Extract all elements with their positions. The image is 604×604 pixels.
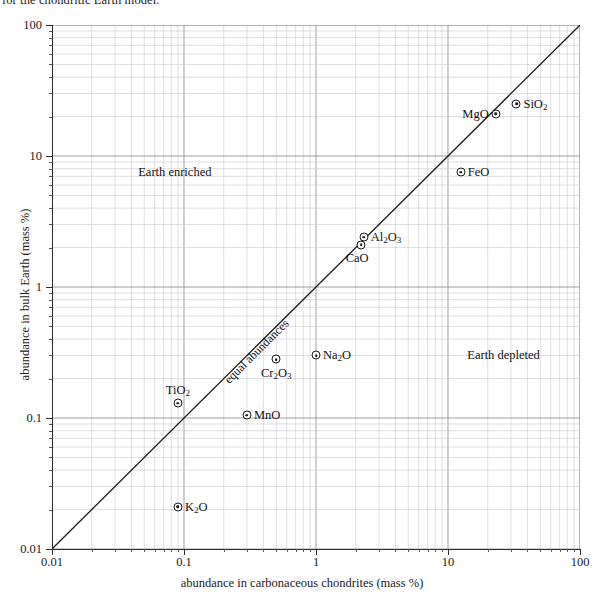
x-tick-minor — [115, 549, 116, 552]
y-tick-minor — [49, 326, 52, 327]
y-tick-minor — [49, 486, 52, 487]
x-tick-minor — [567, 549, 568, 552]
y-tick-label: 0.01 — [0, 542, 42, 557]
x-tick-minor — [356, 549, 357, 552]
y-tick-minor — [49, 379, 52, 380]
x-tick-minor — [395, 549, 396, 552]
x-tick-minor — [560, 549, 561, 552]
y-tick-minor — [49, 470, 52, 471]
y-tick — [46, 25, 52, 26]
x-tick-label: 100 — [571, 555, 590, 570]
y-tick-label: 10 — [0, 149, 42, 164]
y-tick — [46, 418, 52, 419]
y-axis-title: abundance in bulk Earth (mass %) — [18, 175, 33, 415]
y-tick-minor — [49, 117, 52, 118]
x-axis-title: abundance in carbonaceous chondrites (ma… — [0, 576, 604, 591]
y-tick-minor — [49, 457, 52, 458]
x-tick-minor — [164, 549, 165, 552]
x-tick-minor — [296, 549, 297, 552]
x-tick-minor — [303, 549, 304, 552]
x-tick-minor — [540, 549, 541, 552]
x-tick-minor — [155, 549, 156, 552]
x-tick-minor — [287, 549, 288, 552]
x-tick-label: 0.1 — [176, 555, 192, 570]
x-tick-minor — [442, 549, 443, 552]
x-tick-minor — [247, 549, 248, 552]
y-tick-minor — [49, 355, 52, 356]
figure-root: for the chondritic Earth model. SiO2MgOF… — [0, 0, 604, 604]
x-tick-label: 0.01 — [41, 555, 63, 570]
y-tick-minor — [49, 447, 52, 448]
x-tick-minor — [488, 549, 489, 552]
y-tick-minor — [49, 54, 52, 55]
x-tick-minor — [428, 549, 429, 552]
y-tick-minor — [49, 438, 52, 439]
y-tick-minor — [49, 431, 52, 432]
x-tick-minor — [131, 549, 132, 552]
y-tick-label: 100 — [0, 18, 42, 33]
x-tick-minor — [511, 549, 512, 552]
y-tick-minor — [49, 316, 52, 317]
y-tick-minor — [49, 510, 52, 511]
x-tick-minor — [224, 549, 225, 552]
x-tick-label: 1 — [313, 555, 319, 570]
x-tick-minor — [276, 549, 277, 552]
x-tick-minor — [310, 549, 311, 552]
x-tick-minor — [551, 549, 552, 552]
y-tick-minor — [49, 208, 52, 209]
y-tick — [46, 287, 52, 288]
y-tick-minor — [49, 185, 52, 186]
x-tick-minor — [178, 549, 179, 552]
y-tick-minor — [49, 248, 52, 249]
x-tick-minor — [171, 549, 172, 552]
y-tick-minor — [49, 93, 52, 94]
y-tick-minor — [49, 339, 52, 340]
y-tick-minor — [49, 38, 52, 39]
y-tick-minor — [49, 45, 52, 46]
x-tick-minor — [144, 549, 145, 552]
x-tick-label: 10 — [442, 555, 455, 570]
x-tick-minor — [408, 549, 409, 552]
y-tick-minor — [49, 162, 52, 163]
y-tick-minor — [49, 307, 52, 308]
y-tick-minor — [49, 169, 52, 170]
y-tick-minor — [49, 224, 52, 225]
y-tick-minor — [49, 176, 52, 177]
ticks-layer: 0.010.11101000.010.1110100 — [0, 0, 604, 604]
y-tick-minor — [49, 195, 52, 196]
x-tick-minor — [419, 549, 420, 552]
x-tick-minor — [435, 549, 436, 552]
y-tick-minor — [49, 300, 52, 301]
y-tick-minor — [49, 293, 52, 294]
x-tick-minor — [263, 549, 264, 552]
x-tick-minor — [379, 549, 380, 552]
y-tick-minor — [49, 77, 52, 78]
x-tick-minor — [527, 549, 528, 552]
y-tick — [46, 156, 52, 157]
y-tick-minor — [49, 64, 52, 65]
x-tick-minor — [92, 549, 93, 552]
x-tick-minor — [574, 549, 575, 552]
y-tick-minor — [49, 424, 52, 425]
y-tick-minor — [49, 31, 52, 32]
